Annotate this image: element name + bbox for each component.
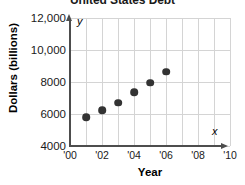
y-tick-label: 10,000 — [0, 44, 66, 56]
y-axis-arrowhead-icon — [66, 14, 72, 21]
y-axis-tick-labels: 40006000800010,00012,000 — [0, 0, 66, 185]
gridline-vertical — [102, 18, 103, 146]
gridline-vertical — [166, 18, 167, 146]
x-axis-title: Year — [70, 166, 230, 178]
y-axis-line — [69, 20, 71, 147]
data-point — [114, 99, 122, 107]
gridline-vertical — [86, 18, 87, 146]
y-tick-label: 8000 — [0, 76, 66, 88]
data-point — [162, 68, 170, 76]
x-tick-label: '06 — [159, 149, 173, 161]
data-point — [82, 113, 90, 121]
x-tick-label: '04 — [127, 149, 141, 161]
x-axis-arrowhead-icon — [221, 143, 228, 149]
gridline-vertical — [230, 18, 231, 146]
data-point — [98, 106, 106, 114]
y-tick-label: 6000 — [0, 108, 66, 120]
data-point — [146, 79, 154, 87]
gridline-vertical — [134, 18, 135, 146]
y-axis-variable-label: y — [77, 15, 83, 27]
gridline-vertical — [182, 18, 183, 146]
x-tick-label: '10 — [223, 149, 237, 161]
x-tick-label: '08 — [191, 149, 205, 161]
x-tick-label: '02 — [95, 149, 109, 161]
plot-area — [70, 18, 230, 146]
chart-canvas: United States Debt Dollars (billions) Ye… — [0, 0, 245, 185]
data-point — [130, 89, 138, 97]
x-tick-label: '00 — [63, 149, 77, 161]
x-axis-variable-label: x — [212, 125, 218, 137]
gridline-vertical — [118, 18, 119, 146]
y-tick-label: 12,000 — [0, 12, 66, 24]
x-axis-line — [69, 145, 222, 147]
y-tick-label: 4000 — [0, 140, 66, 152]
gridline-vertical — [198, 18, 199, 146]
